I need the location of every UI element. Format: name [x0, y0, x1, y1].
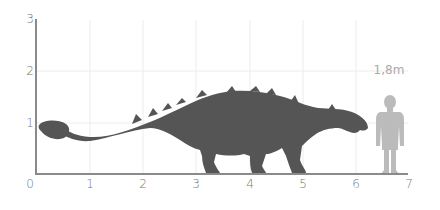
y-tick-3: 3	[26, 12, 34, 26]
chart-canvas	[0, 0, 440, 210]
x-tick-7: 7	[405, 177, 413, 191]
human-silhouette	[376, 95, 404, 174]
x-tick-2: 2	[139, 177, 147, 191]
y-tick-2: 2	[26, 64, 34, 78]
x-tick-3: 3	[192, 177, 200, 191]
ankylosaur-silhouette	[39, 86, 368, 173]
human-height-label: 1,8m	[374, 63, 405, 77]
x-tick-5: 5	[299, 177, 307, 191]
x-tick-1: 1	[86, 177, 94, 191]
x-tick-4: 4	[246, 177, 254, 191]
x-tick-6: 6	[352, 177, 360, 191]
x-tick-0: 0	[26, 177, 34, 191]
size-comparison-chart: 3 2 1 0 1 2 3 4 5 6 7 1,8m	[0, 0, 440, 210]
y-tick-1: 1	[26, 116, 34, 130]
